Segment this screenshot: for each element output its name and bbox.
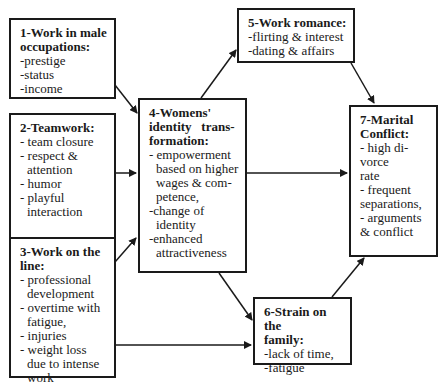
box-title: formation: bbox=[149, 134, 239, 148]
box-title: 1-Work in male bbox=[20, 26, 108, 40]
box-title: Conflict: bbox=[360, 127, 430, 141]
edge-6-to-7 bbox=[332, 258, 364, 297]
box-item: - weight loss due to intense work bbox=[20, 343, 108, 383]
box-item: - overtime with fatigue, bbox=[20, 301, 108, 329]
box-title: 7-Marital bbox=[360, 113, 430, 127]
box-item: - high di- bbox=[360, 141, 430, 155]
box-item: - playful interaction bbox=[20, 191, 108, 219]
edge-4-to-6 bbox=[219, 273, 252, 320]
box-item: - injuries bbox=[20, 329, 108, 343]
edge-5-to-7 bbox=[351, 63, 374, 103]
box-item: - team closure bbox=[20, 135, 108, 149]
box-work-in-male-occupations: 1-Work in male occupations: -prestige -s… bbox=[9, 18, 116, 99]
box-item: - professional development bbox=[20, 273, 108, 301]
box-item: -change of identity bbox=[149, 204, 239, 232]
box-teamwork: 2-Teamwork: - team closure - respect & a… bbox=[9, 113, 116, 253]
box-item: -flirting & interest bbox=[248, 30, 347, 44]
box-item: -lack of time, bbox=[264, 347, 344, 361]
box-item: -status bbox=[20, 68, 108, 82]
box-title: 5-Work romance: bbox=[248, 16, 347, 30]
box-title: line: bbox=[20, 259, 108, 273]
edge-3-to-4 bbox=[115, 238, 136, 262]
box-title: family: bbox=[264, 333, 344, 347]
box-item: -fatigue bbox=[264, 361, 344, 375]
box-title: 4-Womens' bbox=[149, 106, 239, 120]
box-item: vorce bbox=[360, 155, 430, 169]
box-title: 6-Strain on the bbox=[264, 305, 344, 333]
box-item: -dating & affairs bbox=[248, 44, 347, 58]
box-title: identity trans- bbox=[149, 120, 239, 134]
box-item: - frequent bbox=[360, 183, 430, 197]
box-item: - empowerment based on higher wages & co… bbox=[149, 148, 239, 204]
edge-1-to-4 bbox=[115, 85, 137, 113]
box-womens-identity-transformation: 4-Womens' identity trans- formation: - e… bbox=[138, 98, 247, 273]
box-item: -income bbox=[20, 82, 108, 96]
box-item: & conflict bbox=[360, 225, 430, 239]
box-item: - humor bbox=[20, 177, 108, 191]
box-item: - respect & attention bbox=[20, 149, 108, 177]
box-strain-on-the-family: 6-Strain on the family: -lack of time, -… bbox=[253, 297, 352, 365]
box-title: occupations: bbox=[20, 40, 108, 54]
box-title: 2-Teamwork: bbox=[20, 121, 108, 135]
box-title: 3-Work on the bbox=[20, 245, 108, 259]
box-item: -prestige bbox=[20, 54, 108, 68]
box-work-romance: 5-Work romance: -flirting & interest -da… bbox=[237, 8, 355, 63]
box-item: -enhanced attractiveness bbox=[149, 232, 239, 260]
box-work-on-the-line: 3-Work on the line: - professional devel… bbox=[9, 237, 116, 378]
box-item: - arguments bbox=[360, 211, 430, 225]
box-item: separations, bbox=[360, 197, 430, 211]
box-item: rate bbox=[360, 169, 430, 183]
box-marital-conflict: 7-Marital Conflict: - high di- vorce rat… bbox=[349, 105, 438, 257]
edge-4-to-5 bbox=[201, 50, 236, 98]
